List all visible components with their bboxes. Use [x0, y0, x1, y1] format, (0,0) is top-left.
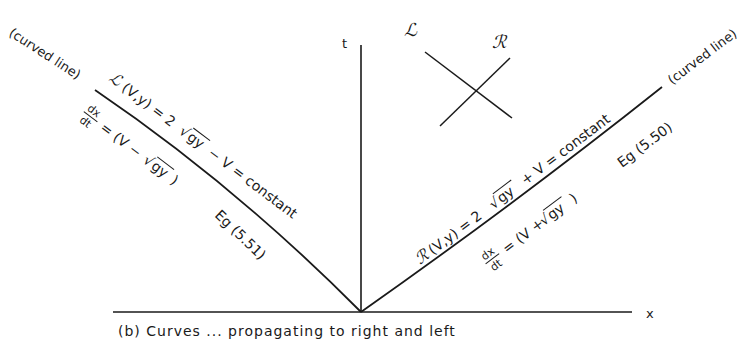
- inset-left-label: ℒ: [404, 19, 418, 40]
- right-invariant-suffix: + V = constant: [518, 110, 614, 188]
- t-axis-label: t: [342, 36, 347, 51]
- left-slope-expr-pre: = (V −: [97, 119, 144, 160]
- right-equation-ref: Eg (5.50): [614, 119, 675, 170]
- inset-right-line: [440, 58, 510, 126]
- inset-left-line: [425, 52, 512, 118]
- left-slope-expr-post: ): [168, 172, 182, 188]
- left-invariant-args: (V,y) = 2: [119, 79, 179, 130]
- figure-caption: (b) Curves ... propagating to right and …: [118, 323, 456, 339]
- left-equation-ref: Eg (5.51): [212, 207, 269, 263]
- right-curved-line-note: (curved line): [665, 26, 740, 88]
- left-curved-line-note: (curved line): [6, 25, 83, 82]
- left-note-group: (curved line): [6, 25, 83, 82]
- left-eqref-group: Eg (5.51): [212, 207, 269, 263]
- right-note-group: (curved line): [665, 26, 740, 88]
- x-axis-label: x: [646, 306, 654, 321]
- right-invariant-args: (V,y) = 2: [425, 207, 485, 258]
- right-eqref-group: Eg (5.50): [614, 119, 675, 170]
- left-characteristic-curve: [95, 90, 361, 312]
- inset-right-label: ℛ: [492, 31, 508, 52]
- right-slope-expr-post: ): [566, 190, 580, 206]
